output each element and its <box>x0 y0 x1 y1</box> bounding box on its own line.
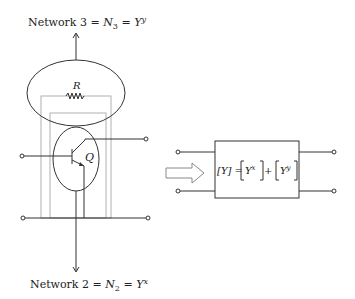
network2-label: Network 2 = N2 = Yx <box>30 277 148 293</box>
terminal-right-top <box>144 137 148 141</box>
terminal-left-top <box>20 154 24 158</box>
down-arrow-icon <box>73 218 79 272</box>
terminal-left-bottom <box>21 216 25 220</box>
eq-terminal-left-bottom <box>176 189 180 193</box>
collector-wire <box>85 139 144 140</box>
network3-label: Network 3 = N3 = Yy <box>28 15 146 31</box>
transistor-label: Q <box>85 151 94 164</box>
plus-sign: + <box>264 165 272 176</box>
transform-arrow-icon <box>166 163 204 183</box>
circuit-diagram: Network 3 = N3 = Yy R Q Network 2 = N2 <box>0 0 355 299</box>
eq-terminal-right-bottom <box>332 189 336 193</box>
transistor-icon <box>72 140 85 166</box>
up-arrow-icon <box>73 33 79 60</box>
equivalent-equation: [Y] = <box>217 165 243 176</box>
resistor-icon <box>66 93 84 99</box>
inner-network-box <box>50 113 106 218</box>
eq-terminal-left-top <box>176 150 180 154</box>
resistor-label: R <box>72 80 81 91</box>
terminal-right-bottom <box>146 216 150 220</box>
term1: Yx <box>245 164 256 176</box>
term2: Yy <box>280 164 292 176</box>
eq-terminal-right-top <box>332 150 336 154</box>
